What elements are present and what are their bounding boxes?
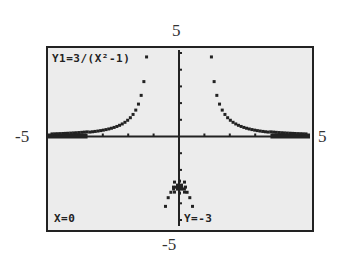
calculator-screen: Y1=3/(X²-1) X=0 Y=-3 xyxy=(46,46,314,232)
equation-label: Y1=3/(X²-1) xyxy=(52,52,130,65)
xmin-label: -5 xyxy=(15,128,29,145)
xmax-label: 5 xyxy=(318,128,327,145)
ymin-label: -5 xyxy=(162,236,176,253)
axes xyxy=(48,50,310,226)
ymax-label: 5 xyxy=(172,22,181,39)
graph-plot: Y1=3/(X²-1) X=0 Y=-3 xyxy=(48,48,312,230)
trace-cursor-icon xyxy=(172,180,187,195)
cursor-x-readout: X=0 xyxy=(54,212,75,225)
cursor-y-readout: Y=-3 xyxy=(184,212,213,225)
